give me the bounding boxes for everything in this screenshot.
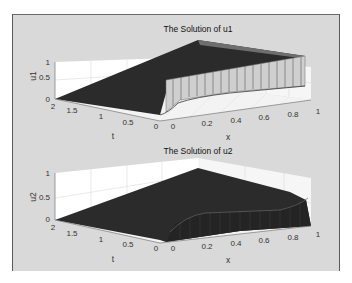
x-tick: 0 bbox=[171, 244, 176, 253]
t-tick: 0.5 bbox=[122, 118, 134, 127]
z-tick: 1 bbox=[46, 169, 51, 178]
plot-u2: The Solution of u2 1 0.5 0 u2 2 1.5 1 0.… bbox=[28, 146, 321, 265]
x-tick: 0.6 bbox=[258, 236, 270, 245]
z-tick: 1 bbox=[46, 58, 51, 67]
t-tick: 1 bbox=[99, 235, 104, 244]
x-tick: 0.4 bbox=[230, 116, 242, 125]
t-tick: 1.5 bbox=[66, 229, 78, 238]
x-tick: 0 bbox=[171, 122, 176, 131]
t-tick: 0 bbox=[154, 244, 159, 253]
z-axis-label: u2 bbox=[28, 192, 38, 202]
x-tick: 0.4 bbox=[230, 239, 242, 248]
t-tick: 2 bbox=[51, 223, 56, 232]
plot-u1: The Solution of u1 1 0.5 0 u1 2 1.5 1 0.… bbox=[28, 24, 321, 142]
x-axis-label: x bbox=[226, 255, 231, 265]
x-axis-label: x bbox=[226, 132, 231, 142]
t-axis-label: t bbox=[112, 254, 115, 264]
z-tick: 0.5 bbox=[39, 193, 51, 202]
x-tick: 0.2 bbox=[201, 119, 213, 128]
x-tick: 0.6 bbox=[258, 113, 270, 122]
x-tick: 1 bbox=[316, 107, 321, 116]
t-tick: 1 bbox=[99, 112, 104, 121]
x-tick: 0.2 bbox=[201, 242, 213, 251]
plot-u1-title: The Solution of u1 bbox=[164, 24, 233, 34]
t-tick: 0 bbox=[154, 122, 159, 131]
z-tick: 0.5 bbox=[39, 73, 51, 82]
x-tick: 0.8 bbox=[287, 110, 299, 119]
z-axis-label: u1 bbox=[28, 71, 38, 81]
t-tick: 1.5 bbox=[66, 106, 78, 115]
plot-u2-title: The Solution of u2 bbox=[164, 146, 233, 156]
x-tick: 0.8 bbox=[287, 233, 299, 242]
t-axis-label: t bbox=[112, 131, 115, 141]
x-tick: 1 bbox=[316, 230, 321, 239]
t-tick: 2 bbox=[51, 102, 56, 111]
figure-canvas: The Solution of u1 1 0.5 0 u1 2 1.5 1 0.… bbox=[0, 0, 352, 283]
t-tick: 0.5 bbox=[122, 240, 134, 249]
